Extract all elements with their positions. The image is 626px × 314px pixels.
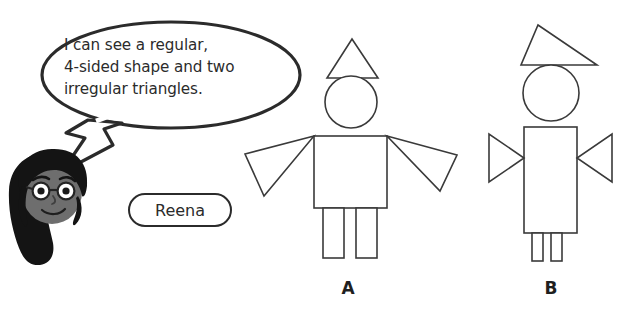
speech-bubble-text: I can see a regular, 4-sided shape and t… (64, 34, 296, 100)
speech-line-3: irregular triangles. (64, 78, 296, 100)
avatar (9, 149, 87, 265)
figure-a-arm-right-triangle (387, 136, 457, 191)
figure-a-label: A (328, 278, 368, 298)
figure-b-leg-right-rect (551, 233, 562, 261)
name-tag-label: Reena (155, 201, 205, 220)
avatar-eye-left (37, 187, 44, 194)
figure-a-leg-left-rect (323, 208, 344, 258)
avatar-eye-right (62, 187, 69, 194)
figure-a-arm-left-triangle (245, 136, 314, 196)
figure-b-head-circle (523, 65, 579, 121)
figure-b-arm-left-triangle (489, 134, 524, 182)
figure-b-body-rect (524, 127, 577, 233)
figure-a-leg-right-rect (356, 208, 377, 258)
figure-b-arm-right-triangle (577, 134, 612, 182)
speech-line-1: I can see a regular, (64, 34, 296, 56)
figure-a-body-square (314, 136, 387, 208)
figure-b-leg-left-rect (532, 233, 543, 261)
figure-b (489, 25, 612, 261)
figure-a-hat-triangle (327, 39, 378, 78)
speech-line-2: 4-sided shape and two (64, 56, 296, 78)
worksheet-canvas: I can see a regular, 4-sided shape and t… (0, 0, 626, 314)
figure-b-label: B (531, 278, 571, 298)
name-tag-reena: Reena (128, 193, 232, 227)
figure-a-head-circle (325, 76, 377, 128)
figure-b-hat-triangle (521, 25, 597, 65)
